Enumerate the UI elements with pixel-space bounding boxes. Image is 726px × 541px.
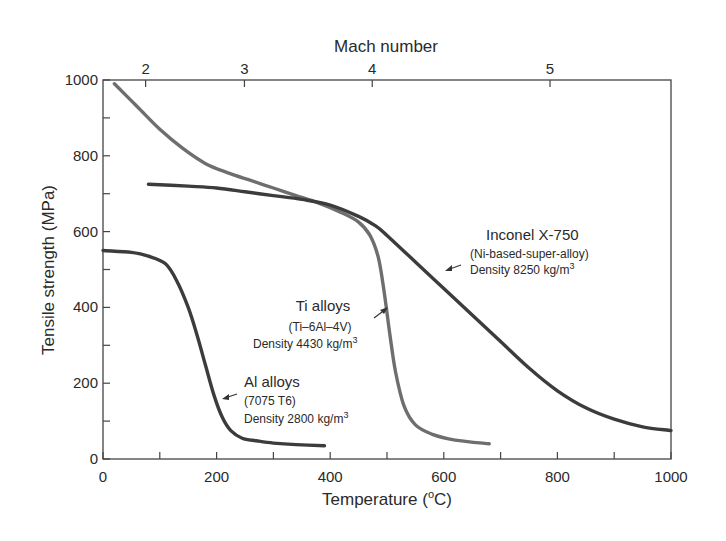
annotation-al: Al alloys (7075 T6) Density 2800 kg/m3	[222, 373, 348, 426]
x-axis-ticks: 02004006008001000	[99, 452, 688, 485]
top-axis-title: Mach number	[334, 37, 438, 56]
ti-name: Ti alloys	[296, 297, 350, 314]
inconel-subtitle: (Ni-based-super-alloy)	[470, 247, 589, 261]
y-tick-label: 800	[73, 147, 98, 164]
x-tick-label: 200	[204, 468, 229, 485]
y-tick-label: 600	[73, 223, 98, 240]
series-lines	[103, 84, 671, 446]
annotation-inconel: Inconel X-750 (Ni-based-super-alloy) Den…	[445, 226, 589, 277]
ti-density: Density 4430 kg/m3	[253, 335, 357, 351]
al-density: Density 2800 kg/m3	[244, 410, 348, 426]
x-tick-label: 400	[318, 468, 343, 485]
x-tick-label: 0	[99, 468, 107, 485]
mach-tick-label: 5	[546, 60, 554, 77]
y-axis-label: Tensile strength (MPa)	[39, 185, 58, 355]
annotation-ti: Ti alloys (Ti–6Al–4V) Density 4430 kg/m3	[253, 297, 388, 351]
ti-subtitle: (Ti–6Al–4V)	[289, 320, 352, 334]
al-subtitle: (7075 T6)	[244, 394, 296, 408]
top-axis-ticks: 2345	[141, 60, 554, 87]
tensile-strength-chart: Mach number 2345 02004006008001000 02004…	[0, 0, 726, 541]
x-tick-label: 1000	[654, 468, 687, 485]
arrowhead-icon	[445, 265, 452, 271]
x-tick-label: 800	[545, 468, 570, 485]
inconel-density: Density 8250 kg/m3	[470, 261, 574, 277]
y-tick-label: 1000	[65, 71, 98, 88]
al-name: Al alloys	[244, 373, 300, 390]
series-line-inconel-x-750	[148, 184, 671, 430]
y-tick-label: 0	[90, 450, 98, 467]
series-line-ti-alloys	[114, 84, 489, 444]
mach-tick-label: 3	[240, 60, 248, 77]
mach-tick-label: 4	[368, 60, 376, 77]
x-axis-label: Temperature (oC)	[322, 488, 452, 509]
arrowhead-icon	[222, 394, 229, 400]
mach-number-label: Mach number	[334, 37, 438, 56]
plot-frame	[103, 80, 671, 459]
x-tick-label: 600	[431, 468, 456, 485]
y-tick-label: 200	[73, 374, 98, 391]
inconel-name: Inconel X-750	[486, 226, 579, 243]
y-tick-label: 400	[73, 298, 98, 315]
mach-tick-label: 2	[141, 60, 149, 77]
